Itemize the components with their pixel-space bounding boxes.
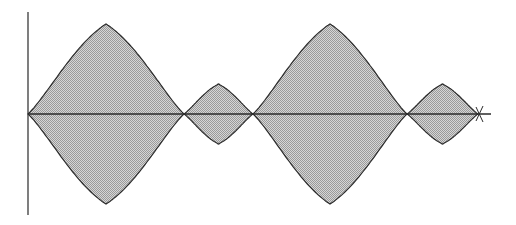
diagram-canvas — [0, 0, 516, 225]
envelope-diagram — [0, 0, 516, 225]
